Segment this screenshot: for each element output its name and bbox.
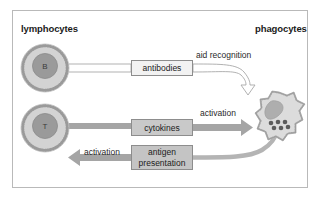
cytokines-box: cytokines (131, 119, 193, 136)
antigen-presentation-box: antigen presentation (131, 145, 193, 170)
b-cell-label: B (35, 62, 55, 71)
t-cell-label: T (35, 122, 55, 131)
cytokines-label: cytokines (144, 123, 179, 133)
antibodies-label: antibodies (143, 63, 182, 73)
aid-recognition-label: aid recognition (196, 50, 251, 60)
activation-left-label: activation (84, 147, 120, 157)
phagocyte-cell (255, 91, 305, 141)
antigen-presentation-label-line1: antigen (148, 147, 176, 158)
antigen-presentation-label-line2: presentation (139, 158, 186, 169)
header-lymphocytes: lymphocytes (21, 23, 78, 34)
diagram-figure: lymphocytes phagocytes B T antibodies cy… (0, 0, 328, 203)
header-phagocytes: phagocytes (255, 23, 307, 34)
activation-right-label: activation (200, 108, 236, 118)
antibodies-box: antibodies (131, 60, 193, 76)
